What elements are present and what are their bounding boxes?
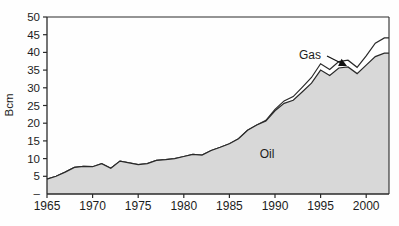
- y-tick-label: 25: [27, 100, 40, 112]
- y-tick-label: 45: [27, 29, 40, 41]
- oil-series-label: Oil: [260, 147, 275, 161]
- x-tick-label: 1995: [307, 199, 334, 213]
- oil-area: [47, 53, 389, 194]
- gas-series-label: Gas: [299, 48, 321, 62]
- x-tick-label: 1990: [262, 199, 289, 213]
- x-tick-label: 1985: [216, 199, 243, 213]
- y-tick-label: 5: [34, 170, 40, 182]
- y-tick-label: 15: [27, 135, 40, 147]
- x-tick-label: 1965: [34, 199, 61, 213]
- x-tick-label: 1980: [170, 199, 197, 213]
- y-tick-label: 20: [27, 117, 40, 129]
- y-tick-label: 10: [27, 153, 40, 165]
- y-tick-label: 35: [27, 64, 40, 76]
- x-tick-label: 1975: [125, 199, 152, 213]
- oil-gas-area-chart: 5045403530252015105–19651970197519801985…: [0, 0, 399, 226]
- x-tick-label: 1970: [79, 199, 106, 213]
- y-axis-title: Bcm: [3, 94, 15, 117]
- x-tick-label: 2000: [353, 199, 380, 213]
- y-tick-label: 40: [27, 46, 40, 58]
- gas-arrow-line: [327, 56, 340, 62]
- y-tick-label: 50: [27, 11, 40, 23]
- y-tick-label: 30: [27, 82, 40, 94]
- y-tick-label: –: [34, 187, 41, 199]
- figure: 5045403530252015105–19651970197519801985…: [0, 0, 399, 226]
